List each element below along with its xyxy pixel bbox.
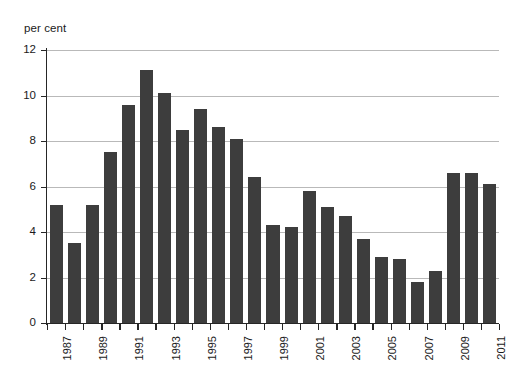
gridline <box>47 96 499 97</box>
y-axis-tick-label: 8 <box>10 134 36 146</box>
y-axis-tick-label: 6 <box>10 180 36 192</box>
bar <box>248 177 261 323</box>
x-axis-tick <box>228 324 229 330</box>
x-axis-tick-label: 2005 <box>386 336 398 360</box>
x-axis-tick <box>354 324 355 330</box>
bar <box>465 173 478 323</box>
x-axis-tick-label: 1999 <box>278 336 290 360</box>
y-axis-tick <box>41 278 47 279</box>
bar <box>266 225 279 323</box>
bar <box>140 70 153 323</box>
x-axis-tick <box>174 324 175 330</box>
x-axis-tick <box>282 324 283 330</box>
y-axis-unit-label: per cent <box>24 22 66 34</box>
x-axis-tick <box>445 324 446 330</box>
bar <box>447 173 460 323</box>
x-axis-tick-label: 1997 <box>242 336 254 360</box>
bar <box>339 216 352 323</box>
bar <box>50 205 63 323</box>
bar <box>194 109 207 323</box>
gridline <box>47 141 499 142</box>
y-axis-tick-label: 10 <box>10 89 36 101</box>
x-axis-line <box>46 323 499 324</box>
bar <box>303 191 316 323</box>
bar-chart: per cent 024681012 198719891991199319951… <box>0 0 516 384</box>
x-axis-tick <box>137 324 138 330</box>
bar <box>285 227 298 323</box>
x-axis-tick <box>264 324 265 330</box>
x-axis-tick-label: 1991 <box>133 336 145 360</box>
x-axis-tick <box>481 324 482 330</box>
bar <box>230 139 243 323</box>
x-axis-tick-label: 2007 <box>423 336 435 360</box>
y-axis-tick <box>41 187 47 188</box>
y-axis-tick <box>41 50 47 51</box>
y-axis-tick <box>41 96 47 97</box>
bar <box>357 239 370 323</box>
x-axis-tick <box>318 324 319 330</box>
x-axis-tick <box>47 324 48 330</box>
plot-area <box>47 50 499 323</box>
bar <box>158 93 171 323</box>
x-axis-tick <box>83 324 84 330</box>
x-axis-tick-label: 2011 <box>495 336 507 360</box>
x-axis-tick <box>155 324 156 330</box>
bar <box>321 207 334 323</box>
bar <box>393 259 406 323</box>
x-axis-tick <box>65 324 66 330</box>
bar <box>86 205 99 323</box>
y-axis-tick-label: 0 <box>10 316 36 328</box>
bar <box>375 257 388 323</box>
bar <box>212 127 225 323</box>
x-axis-tick <box>210 324 211 330</box>
bar <box>68 243 81 323</box>
y-axis-tick-label: 2 <box>10 271 36 283</box>
y-axis-tick-label: 12 <box>10 43 36 55</box>
x-axis-tick-label: 2001 <box>314 336 326 360</box>
bar <box>411 282 424 323</box>
bar <box>176 130 189 323</box>
x-axis-tick <box>119 324 120 330</box>
x-axis-tick-label: 1993 <box>170 336 182 360</box>
x-axis-tick <box>300 324 301 330</box>
x-axis-tick <box>192 324 193 330</box>
x-axis-tick-label: 1987 <box>61 336 73 360</box>
y-axis-tick <box>41 232 47 233</box>
x-axis-tick <box>463 324 464 330</box>
x-axis-tick-label: 2003 <box>350 336 362 360</box>
x-axis-tick <box>372 324 373 330</box>
y-axis-tick <box>41 141 47 142</box>
x-axis-tick-label: 1995 <box>206 336 218 360</box>
x-axis-tick <box>499 324 500 330</box>
y-axis-tick-label: 4 <box>10 225 36 237</box>
x-axis-tick <box>427 324 428 330</box>
bar <box>483 184 496 323</box>
bar <box>104 152 117 323</box>
x-axis-tick <box>336 324 337 330</box>
bar <box>122 105 135 323</box>
x-axis-tick <box>391 324 392 330</box>
x-axis-tick <box>246 324 247 330</box>
x-axis-tick-label: 1989 <box>97 336 109 360</box>
gridline <box>47 50 499 51</box>
bar <box>429 271 442 323</box>
x-axis-tick <box>101 324 102 330</box>
x-axis-tick <box>409 324 410 330</box>
x-axis-tick-label: 2009 <box>459 336 471 360</box>
